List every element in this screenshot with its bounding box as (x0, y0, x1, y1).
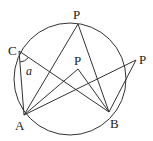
segments (19, 24, 136, 115)
segment-pouter-b (109, 60, 136, 112)
geometry-diagram: C A B P P P a (0, 0, 153, 141)
label-p-inner: P (74, 53, 81, 68)
label-c: C (8, 43, 17, 58)
label-a: A (15, 118, 25, 133)
label-p-outer: P (139, 52, 146, 67)
label-p-top: P (73, 7, 80, 22)
segment-ca (19, 51, 24, 115)
segment-ptop-b (78, 24, 109, 112)
label-b: B (110, 116, 119, 131)
label-angle-a: a (26, 64, 32, 78)
angle-arc (20, 58, 28, 62)
